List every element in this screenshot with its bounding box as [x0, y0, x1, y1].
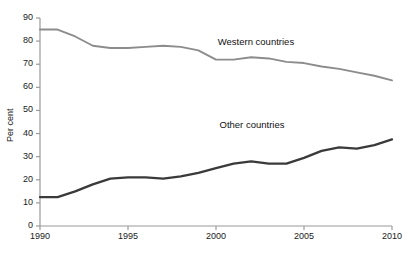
y-axis-tick-label: 10 — [8, 198, 33, 207]
series-line-2 — [40, 139, 392, 197]
plot-area — [0, 0, 415, 254]
x-axis-tick-label: 2000 — [196, 232, 236, 241]
x-axis-tick-label: 1995 — [108, 232, 148, 241]
series-label-2: Other countries — [220, 120, 285, 130]
y-axis-title: Per cent — [6, 108, 15, 142]
data-series-group — [40, 30, 392, 198]
y-axis-tick-label: 70 — [8, 59, 33, 68]
x-axis-tick-label: 2005 — [284, 232, 324, 241]
y-axis-tick-label: 80 — [8, 36, 33, 45]
line-chart: 0102030405060708090 19901995200020052010… — [0, 0, 415, 254]
y-axis-tick-label: 90 — [8, 13, 33, 22]
series-line-1 — [40, 30, 392, 81]
y-axis-tick-label: 30 — [8, 152, 33, 161]
x-axis-ticks — [40, 226, 392, 230]
y-axis-tick-label: 20 — [8, 175, 33, 184]
x-axis-tick-label: 2010 — [372, 232, 412, 241]
series-label-1: Western countries — [218, 37, 294, 47]
x-axis-tick-label: 1990 — [20, 232, 60, 241]
y-axis-tick-label: 60 — [8, 82, 33, 91]
y-axis-tick-label: 0 — [8, 221, 33, 230]
